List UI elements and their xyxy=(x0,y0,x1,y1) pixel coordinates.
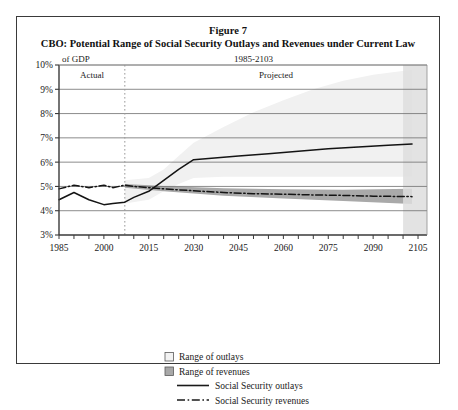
y-tick-label: 10% xyxy=(36,60,54,70)
legend-label: Social Security revenues xyxy=(215,396,309,406)
period-label: 1985-2103 xyxy=(234,54,273,64)
projected-region-label: Projected xyxy=(259,70,293,80)
x-tick-label: 2030 xyxy=(184,243,203,253)
revenues-range-swatch xyxy=(165,367,174,376)
y-tick-label: 8% xyxy=(40,109,53,119)
legend-label: Range of outlays xyxy=(179,352,244,362)
x-tick-label: 2015 xyxy=(139,243,158,253)
range-band xyxy=(125,70,412,204)
y-tick-label: 4% xyxy=(40,206,53,216)
y-tick-label: 6% xyxy=(40,158,53,168)
end-shade-layer xyxy=(403,65,427,235)
legend-label: Range of revenues xyxy=(179,367,250,377)
y-tick-label: 7% xyxy=(40,133,53,143)
x-tick-label: 2105 xyxy=(409,243,428,253)
x-tick-label: 2060 xyxy=(274,243,293,253)
social-security-chart: 3%4%5%6%7%8%9%10%19852000201520302045206… xyxy=(17,51,441,351)
title-block: Figure 7 CBO: Potential Range of Social … xyxy=(17,17,439,51)
x-tick-label: 1985 xyxy=(50,243,69,253)
figure-frame: Figure 7 CBO: Potential Range of Social … xyxy=(16,16,440,364)
outlays-range-swatch xyxy=(165,353,174,362)
y-tick-label: 3% xyxy=(40,230,53,240)
x-tick-label: 2000 xyxy=(94,243,113,253)
y-tick-label: 5% xyxy=(40,182,53,192)
y-tick-label: 9% xyxy=(40,85,53,95)
legend-graphic: Range of outlaysRange of revenuesSocial … xyxy=(17,351,441,410)
band-layer xyxy=(125,70,412,204)
actual-region-label: Actual xyxy=(80,70,104,80)
x-tick-label: 2090 xyxy=(364,243,383,253)
figure-title: CBO: Potential Range of Social Security … xyxy=(17,37,439,51)
figure-number: Figure 7 xyxy=(17,24,439,37)
annotation-layer: of GDP1985-2103ActualProjected xyxy=(62,54,293,80)
chart-legend: Range of outlaysRange of revenuesSocial … xyxy=(17,351,439,410)
x-tick-label: 2075 xyxy=(319,243,338,253)
chart-area: 3%4%5%6%7%8%9%10%19852000201520302045206… xyxy=(17,51,441,351)
y-axis-unit-label: of GDP xyxy=(62,54,90,64)
x-tick-label: 2045 xyxy=(229,243,248,253)
legend-label: Social Security outlays xyxy=(215,381,303,391)
end-period-shading xyxy=(403,65,427,235)
